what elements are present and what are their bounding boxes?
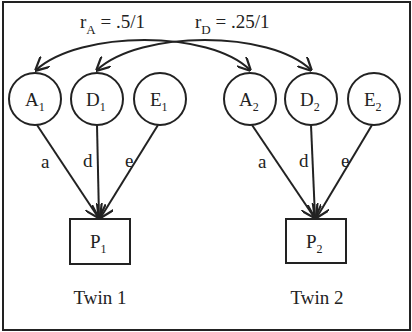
rD-label: rD = .25/1	[195, 11, 269, 37]
latent-E2: E2	[348, 73, 400, 125]
path-label-a-twin1: a	[41, 151, 50, 172]
rA-label: rA = .5/1	[80, 11, 145, 37]
twin2-label: Twin 2	[290, 287, 343, 308]
latent-A1: A1	[9, 73, 61, 125]
path-label-d-twin1: d	[83, 150, 93, 171]
twin-model-diagram: rA = .5/1 rD = .25/1 A1 D1 E1 A2 D2 E2 a…	[0, 0, 412, 332]
path-label-e-twin2: e	[341, 150, 349, 171]
path-d-twin2	[311, 125, 315, 217]
phenotype-P1: P1	[70, 219, 130, 264]
phenotype-P2: P2	[286, 219, 346, 263]
rA-correlation-arc	[36, 40, 250, 70]
latent-A2: A2	[224, 73, 276, 125]
path-label-a-twin2: a	[258, 151, 267, 172]
twin1-label: Twin 1	[73, 287, 126, 308]
path-label-e-twin1: e	[125, 150, 133, 171]
path-e-twin2	[317, 125, 372, 217]
path-e-twin1	[101, 125, 158, 217]
path-label-d-twin2: d	[299, 150, 309, 171]
latent-E1: E1	[134, 73, 186, 125]
path-d-twin1	[97, 125, 99, 217]
rD-correlation-arc	[97, 40, 311, 70]
latent-D2: D2	[285, 73, 337, 125]
latent-D1: D1	[71, 73, 123, 125]
